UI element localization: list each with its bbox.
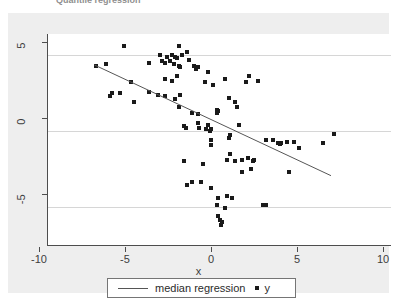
plot-panel xyxy=(47,34,391,246)
y-axis-tick-label: 0 xyxy=(16,118,27,148)
x-axis-tick-label: 10 xyxy=(363,253,396,265)
x-axis-tick xyxy=(211,247,212,252)
x-axis-tick xyxy=(297,247,298,252)
x-axis-tick-label: -10 xyxy=(19,253,59,265)
y-axis-tick xyxy=(42,42,47,43)
legend[interactable]: median regression y xyxy=(107,278,296,298)
x-axis-tick xyxy=(39,247,40,252)
x-axis-tick-label: 0 xyxy=(191,253,231,265)
x-axis-tick-label: 5 xyxy=(277,253,317,265)
legend-marker-label: y xyxy=(265,282,271,294)
y-axis-tick xyxy=(42,118,47,119)
x-axis-tick-label: -5 xyxy=(105,253,145,265)
y-axis-tick xyxy=(42,194,47,195)
y-axis-tick-label: 5 xyxy=(16,43,27,73)
x-axis-title: x xyxy=(8,265,389,277)
legend-line-label: median regression xyxy=(155,282,246,294)
legend-line-swatch-icon xyxy=(118,288,148,289)
x-axis-tick xyxy=(125,247,126,252)
clipped-caption: Quantile regression xyxy=(56,0,206,7)
x-axis-tick xyxy=(383,247,384,252)
graph-region: 50-5 -10-50510 x median regression y xyxy=(8,13,389,293)
caption-text: Quantile regression xyxy=(56,0,206,5)
legend-square-marker-icon xyxy=(255,286,259,290)
median-regression-line xyxy=(48,34,391,245)
y-axis-tick-label: -5 xyxy=(16,194,27,224)
